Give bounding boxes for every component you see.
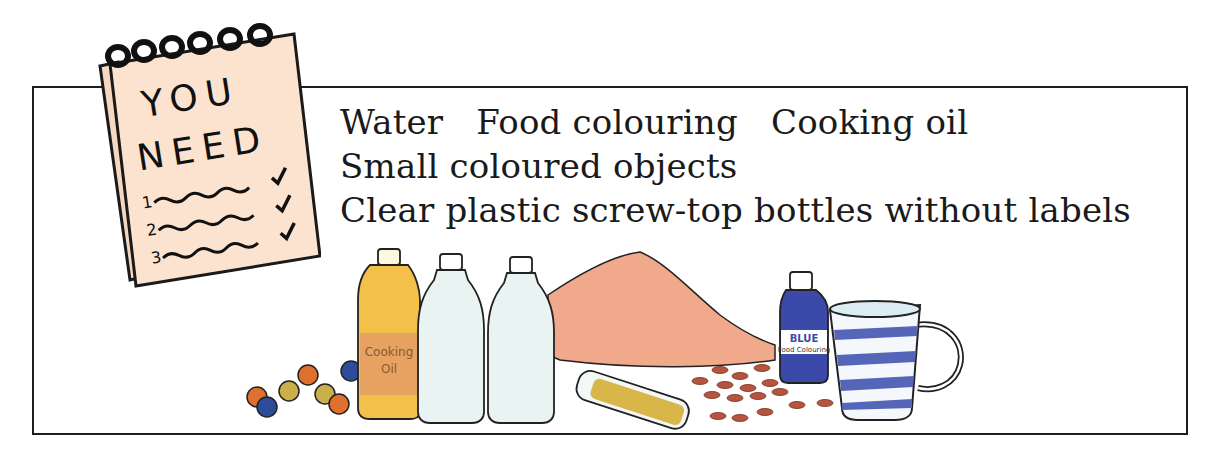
materials-line-2: Small coloured objects — [340, 144, 1131, 188]
you-need-notepad: YOU NEED 1 2 3 — [96, 18, 321, 293]
materials-list: Water Food colouring Cooking oil Small c… — [340, 100, 1131, 232]
materials-line-1: Water Food colouring Cooking oil — [340, 100, 1131, 144]
materials-line-3: Clear plastic screw-top bottles without … — [340, 188, 1131, 232]
